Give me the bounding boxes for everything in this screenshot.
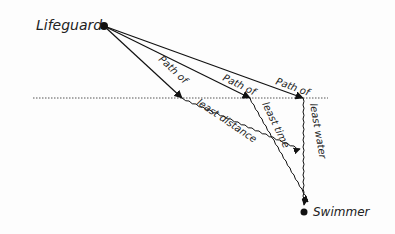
swimmer-label: Swimmer bbox=[313, 205, 371, 219]
path-least-time-water bbox=[250, 98, 308, 202]
diagram-canvas: Lifeguard Swimmer Path of least distance… bbox=[0, 0, 395, 234]
path-least-distance-label-bottom: least distance bbox=[195, 97, 259, 145]
path-least-water-label-bottom: least water bbox=[308, 102, 329, 160]
path-least-water-water bbox=[303, 98, 304, 205]
lifeguard-diagram: Lifeguard Swimmer Path of least distance… bbox=[0, 0, 395, 234]
path-least-water-land bbox=[104, 26, 303, 98]
path-least-time-land bbox=[104, 26, 250, 98]
swimmer-dot bbox=[301, 209, 308, 216]
path-least-distance-label-top: Path of bbox=[157, 53, 191, 86]
lifeguard-label: Lifeguard bbox=[36, 17, 102, 33]
